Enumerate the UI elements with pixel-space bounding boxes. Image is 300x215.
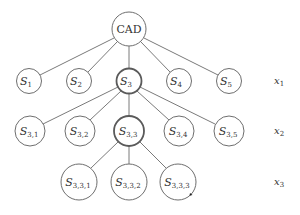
- node-s3-2: S3,2: [65, 116, 95, 146]
- node-s3-3-3: S3,3,3: [160, 164, 196, 200]
- edge-s33-s331: [91, 142, 118, 168]
- level-2-label: x2: [274, 125, 284, 138]
- node-cad-label: CAD: [116, 23, 141, 36]
- node-s3-3: S3,3: [114, 116, 144, 146]
- node-s3: S3: [117, 69, 142, 94]
- edge-s33-s333: [140, 142, 166, 168]
- level-2-nodes: S3,1 S3,2 S3,3 S3,4 S3,5 x2: [15, 116, 284, 146]
- level-1-nodes: S1 S2 S3 S4 S5 x1: [17, 69, 285, 94]
- node-s3-4: S3,4: [164, 116, 194, 146]
- edge-cad-s4: [141, 42, 170, 72]
- node-s3-1: S3,1: [15, 116, 45, 146]
- edge-cad-s2: [88, 42, 117, 72]
- node-s3-3-1: S3,3,1: [61, 164, 97, 200]
- node-s5: S5: [217, 69, 242, 94]
- node-cad: CAD: [112, 12, 146, 46]
- level-1-label: x1: [274, 75, 284, 88]
- edge-s3-s32: [90, 91, 121, 120]
- node-s4: S4: [167, 69, 192, 94]
- node-s1: S1: [17, 69, 42, 94]
- node-s3-3-2: S3,3,2: [111, 164, 147, 200]
- level-3-label: x3: [274, 176, 284, 189]
- node-s2: S2: [67, 69, 92, 94]
- edges: [40, 38, 218, 168]
- node-s3-5: S3,5: [214, 116, 244, 146]
- tree-diagram: CAD S1 S2 S3 S4 S5 x1 S3,1: [0, 0, 300, 215]
- level-3-nodes: S3,3,1 S3,3,2 S3,3,3 x3: [61, 164, 284, 200]
- edge-s3-s34: [137, 91, 169, 120]
